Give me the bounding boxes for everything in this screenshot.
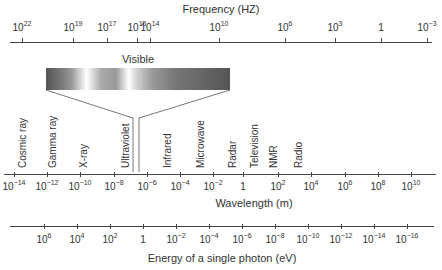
wavelength-tick bbox=[114, 172, 115, 177]
wavelength-tick bbox=[213, 172, 214, 177]
energy-tick bbox=[77, 224, 78, 229]
wavelength-tick bbox=[243, 172, 244, 177]
energy-tick bbox=[275, 224, 276, 229]
energy-tick-label: 10−14 bbox=[363, 234, 386, 245]
energy-axis-title: Energy of a single photon (eV) bbox=[148, 252, 297, 264]
energy-tick bbox=[308, 224, 309, 229]
wavelength-tick bbox=[147, 172, 148, 177]
wavelength-tick bbox=[47, 172, 48, 177]
energy-tick-label: 10−2 bbox=[166, 234, 185, 245]
wavelength-tick bbox=[345, 172, 346, 177]
energy-tick bbox=[374, 224, 375, 229]
energy-tick-label: 10−6 bbox=[232, 234, 251, 245]
energy-tick-label: 102 bbox=[102, 234, 117, 245]
energy-tick-label: 10−16 bbox=[396, 234, 419, 245]
energy-axis-line bbox=[10, 226, 434, 227]
energy-tick bbox=[341, 224, 342, 229]
wavelength-tick bbox=[278, 172, 279, 177]
band-label-cosmic-ray: Cosmic ray bbox=[17, 118, 28, 168]
energy-tick bbox=[242, 224, 243, 229]
wavelength-tick-label: 10−10 bbox=[69, 181, 92, 192]
wavelength-tick-label: 104 bbox=[303, 181, 318, 192]
band-label-microwave: Microwave bbox=[195, 120, 206, 168]
wavelength-tick-label: 10−14 bbox=[3, 181, 26, 192]
energy-tick-label: 10−12 bbox=[330, 234, 353, 245]
energy-tick bbox=[110, 224, 111, 229]
wavelength-tick-label: 10−6 bbox=[137, 181, 156, 192]
band-label-infrared: Infrared bbox=[162, 134, 173, 168]
wavelength-tick bbox=[180, 172, 181, 177]
wavelength-tick-label: 108 bbox=[370, 181, 385, 192]
wavelength-axis-title: Wavelength (m) bbox=[215, 197, 292, 209]
wavelength-tick-label: 10−4 bbox=[170, 181, 189, 192]
energy-tick bbox=[176, 224, 177, 229]
energy-tick-label: 104 bbox=[69, 234, 84, 245]
band-label-nmr: NMR bbox=[268, 145, 279, 168]
wavelength-tick-label: 1 bbox=[240, 181, 246, 192]
energy-tick-label: 10−10 bbox=[297, 234, 320, 245]
wavelength-tick bbox=[80, 172, 81, 177]
wavelength-tick bbox=[411, 172, 412, 177]
energy-tick bbox=[143, 224, 144, 229]
wavelength-tick bbox=[14, 172, 15, 177]
band-label-x-ray: X-ray bbox=[78, 144, 89, 168]
band-label-television: Television bbox=[249, 124, 260, 168]
band-label-radio: Radio bbox=[293, 142, 304, 168]
wavelength-tick-label: 1010 bbox=[402, 181, 421, 192]
band-label-ultraviolet: Ultraviolet bbox=[120, 124, 131, 168]
energy-tick-label: 1 bbox=[140, 234, 146, 245]
wavelength-tick-label: 106 bbox=[337, 181, 352, 192]
energy-tick-label: 106 bbox=[36, 234, 51, 245]
wavelength-tick-label: 10−12 bbox=[36, 181, 59, 192]
wavelength-axis-line bbox=[4, 174, 436, 175]
energy-tick-label: 10−4 bbox=[199, 234, 218, 245]
wavelength-tick-label: 10−2 bbox=[203, 181, 222, 192]
energy-tick bbox=[44, 224, 45, 229]
visible-zoom-lines bbox=[0, 0, 442, 270]
wavelength-tick-label: 102 bbox=[270, 181, 285, 192]
energy-tick bbox=[209, 224, 210, 229]
band-label-gamma-ray: Gamma ray bbox=[47, 116, 58, 168]
band-label-radar: Radar bbox=[227, 141, 238, 168]
wavelength-tick-label: 10−8 bbox=[104, 181, 123, 192]
wavelength-tick bbox=[311, 172, 312, 177]
energy-tick bbox=[407, 224, 408, 229]
energy-tick-label: 10−8 bbox=[265, 234, 284, 245]
wavelength-tick bbox=[378, 172, 379, 177]
